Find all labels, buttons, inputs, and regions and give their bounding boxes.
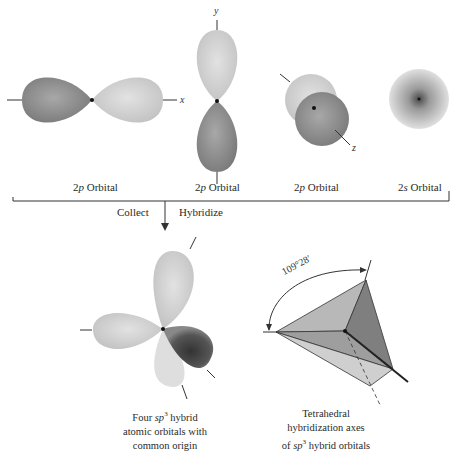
axis-label-z: z <box>352 142 356 153</box>
bracket <box>13 191 449 231</box>
orbital-2s <box>389 69 449 129</box>
orbital-label-2px: 2p Orbital <box>73 181 118 193</box>
caption-sp3-orbitals: Four sp3 hybrid atomic orbitals with com… <box>100 407 230 453</box>
collect-label: Collect <box>117 206 149 218</box>
orbital-label-2s: 2s Orbital <box>398 181 442 193</box>
sp3-hybrid-orbitals <box>80 237 215 399</box>
orbital-diagram <box>0 0 456 458</box>
orbital-2pz <box>280 74 350 146</box>
orbital-2px <box>7 77 177 122</box>
tetrahedron <box>263 260 408 407</box>
orbital-label-2py: 2p Orbital <box>195 181 240 193</box>
orbital-label-2pz: 2p Orbital <box>294 181 339 193</box>
axis-label-y: y <box>214 5 218 16</box>
axis-label-x: x <box>180 94 184 105</box>
orbital-2py <box>197 20 238 184</box>
hybridize-label: Hybridize <box>179 206 223 218</box>
caption-tetrahedral-axes: Tetrahedral hybridization axes of sp3 hy… <box>264 407 388 453</box>
